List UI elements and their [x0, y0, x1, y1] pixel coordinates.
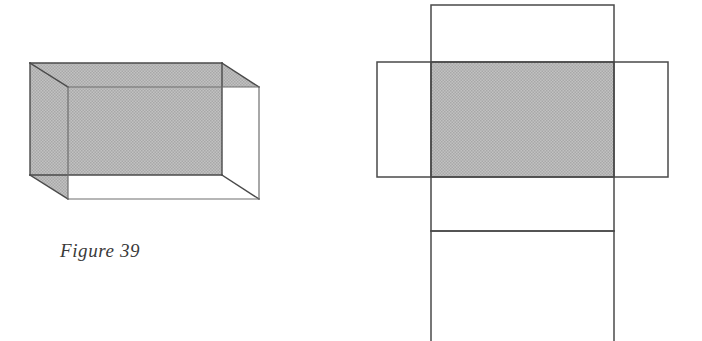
net-left-face [377, 62, 431, 177]
prism-back-face [30, 63, 222, 175]
rectangular-prism-3d [30, 63, 259, 199]
geometry-figure-svg [0, 0, 702, 341]
net-bottom-face [431, 177, 614, 231]
figure-caption: Figure 39 [60, 240, 140, 262]
net-top-face [431, 5, 614, 62]
prism-net-unfolded [377, 5, 668, 341]
net-center-face-fill [431, 62, 614, 177]
prism-edge-depth-bottom-right [222, 175, 259, 199]
net-bottom-extension-face [431, 231, 614, 341]
figure-canvas: Figure 39 [0, 0, 702, 341]
net-right-face [614, 62, 668, 177]
